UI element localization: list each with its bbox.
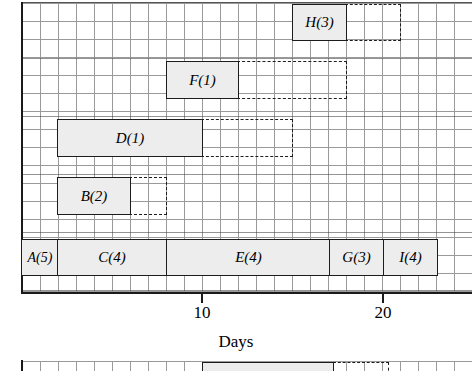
task-bar-C-label: C(4)	[98, 250, 126, 265]
x-tick-10	[201, 294, 203, 303]
task-bar-I-label: I(4)	[399, 250, 422, 265]
task-bar-H-label: H(3)	[305, 15, 333, 30]
next-figure-clipped	[0, 360, 472, 371]
next-figure-bar	[202, 362, 334, 371]
task-bar-G[interactable]: G(3)	[329, 239, 384, 276]
task-bar-B[interactable]: B(2)	[57, 177, 131, 215]
task-bar-D[interactable]: D(1)	[57, 119, 203, 157]
x-axis-title: Days	[0, 332, 472, 352]
task-bar-A-label: A(5)	[28, 251, 53, 265]
next-figure-float-box	[333, 362, 389, 371]
float-box-F	[237, 61, 347, 99]
float-box-D	[201, 119, 293, 157]
float-box-H	[345, 4, 401, 41]
task-bar-H[interactable]: H(3)	[292, 4, 347, 41]
task-bar-G-label: G(3)	[342, 250, 370, 265]
task-bar-E-label: E(4)	[235, 250, 262, 265]
plot-top-border	[21, 2, 472, 3]
x-tick-label-10: 10	[180, 303, 224, 323]
task-bar-B-label: B(2)	[81, 189, 108, 204]
task-bar-F-label: F(1)	[189, 73, 216, 88]
task-bar-D-label: D(1)	[116, 131, 144, 146]
float-box-B	[129, 177, 167, 215]
task-bar-I[interactable]: I(4)	[383, 239, 438, 276]
task-bar-C[interactable]: C(4)	[57, 239, 167, 276]
gantt-chart-figure: H(3) F(1) D(1) B(2) A(5) C(4) E(4) G(3) …	[0, 0, 472, 371]
x-tick-label-20: 20	[361, 303, 405, 323]
next-figure-y-axis	[21, 360, 23, 371]
task-bar-E[interactable]: E(4)	[166, 239, 331, 276]
task-bar-F[interactable]: F(1)	[166, 61, 239, 99]
x-tick-20	[382, 294, 384, 303]
task-bar-A[interactable]: A(5)	[21, 239, 59, 276]
x-axis-line	[21, 292, 472, 294]
